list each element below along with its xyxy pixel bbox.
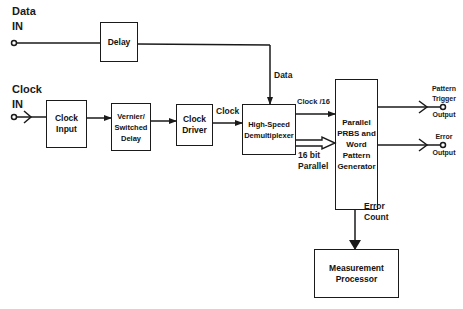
clock-driver-block: ClockDriver [176, 104, 213, 146]
error-output-terminal [441, 143, 446, 148]
pattern-trigger-label-bottom: Output [428, 110, 460, 120]
measurement-processor-block: MeasurementProcessor [314, 249, 399, 298]
pattern-trigger-label-top: Pattern Trigger [428, 84, 460, 104]
clock-in-label: Clock IN [12, 82, 42, 112]
pattern-trigger-terminal [441, 105, 446, 110]
clock-in-terminal [12, 115, 17, 120]
delay-block: Delay [100, 22, 138, 62]
data-in-label: Data IN [12, 4, 36, 34]
demultiplexer-block: High-SpeedDemultiplexer [242, 104, 296, 155]
error-output-label-bottom: Output [428, 148, 460, 158]
prbs-generator-block: Parallel PRBS and Word Pattern Generator [335, 79, 378, 210]
clock-div16-label: Clock /16 [297, 97, 330, 106]
clock-input-block: ClockInput [46, 100, 87, 148]
error-count-label: Error Count [364, 201, 389, 223]
vernier-delay-block: Vernier/SwitchedDelay [111, 103, 151, 151]
data-in-terminal [12, 41, 17, 46]
error-output-label-top: Error [428, 132, 460, 142]
data-signal-label: Data [274, 70, 292, 81]
parallel-bus-label: 16 bit Parallel [298, 150, 328, 172]
clock-signal-label: Clock [216, 106, 239, 117]
